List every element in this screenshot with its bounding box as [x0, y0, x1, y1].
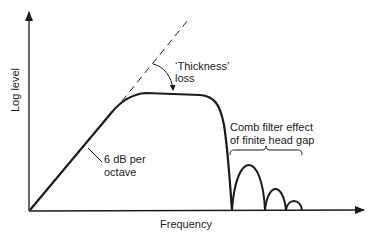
slope-label-line1: 6 dB per: [104, 153, 146, 165]
comb-lobe-1: [232, 165, 265, 210]
thickness-label-line2: loss: [175, 72, 195, 84]
comb-lobe-2: [265, 189, 286, 210]
response-curve: [30, 93, 232, 210]
x-axis-label: Frequency: [160, 218, 212, 230]
comb-brace: [230, 146, 302, 155]
comb-lobe-3: [286, 201, 302, 210]
slope-label-line2: octave: [104, 166, 136, 178]
slope-leader-line: [88, 148, 102, 162]
comb-label-line2: of finite head gap: [230, 134, 314, 146]
x-axis: [29, 210, 364, 211]
response-diagram: Log level Frequency 6 dB per octave ‘Thi…: [0, 0, 373, 237]
y-axis-label: Log level: [9, 68, 21, 112]
comb-label-line1: Comb filter effect: [230, 121, 313, 133]
thickness-loss-arrow: [153, 64, 173, 90]
thickness-label-line1: ‘Thickness’: [175, 60, 229, 72]
